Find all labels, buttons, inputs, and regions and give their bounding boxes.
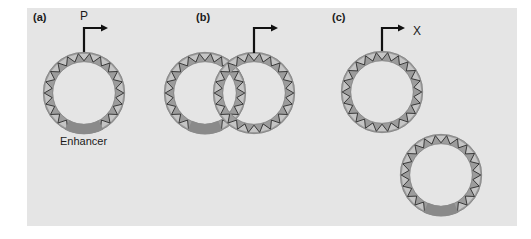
- panel-label-b: (b): [196, 11, 210, 23]
- gene-label-x: X: [413, 24, 421, 38]
- dna-circle-a: [43, 52, 124, 133]
- promoter-arrow-b: [254, 25, 278, 54]
- enhancer-segment: [190, 126, 220, 129]
- promoter-arrow-a: [84, 25, 108, 55]
- enhancer-label: Enhancer: [60, 135, 107, 147]
- dna-circle-c-bottom: [400, 134, 481, 215]
- panel-label-c: (c): [332, 11, 345, 23]
- promoter-label-p: P: [80, 9, 88, 23]
- enhancer-segment: [67, 125, 101, 129]
- enhancer-segment: [426, 208, 456, 211]
- dna-circle-c-top: [341, 51, 422, 132]
- panel-label-a: (a): [33, 11, 46, 23]
- promoter-arrow-c: [382, 25, 405, 54]
- dna-diagram: [0, 0, 531, 239]
- dna-circle-b-right: [213, 52, 294, 133]
